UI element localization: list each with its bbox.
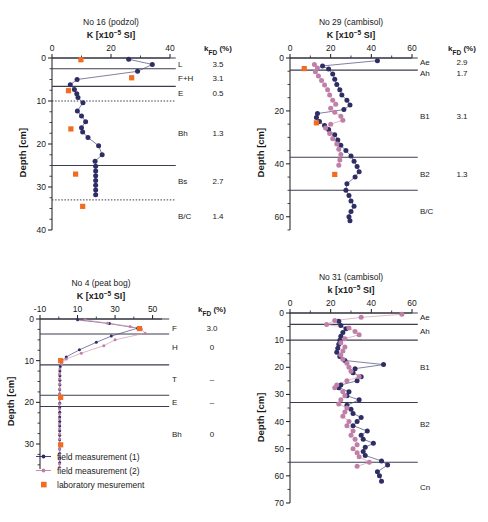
data-point xyxy=(330,98,335,103)
legend-label: field measurement (1) xyxy=(57,452,140,462)
data-point xyxy=(80,129,85,134)
horizon-label: F+H xyxy=(178,74,194,83)
data-point xyxy=(332,77,337,82)
data-point xyxy=(365,429,370,434)
data-point xyxy=(357,169,362,174)
lab-data-point xyxy=(78,57,83,62)
data-point xyxy=(344,423,349,428)
legend: field measurement (1)field measurement (… xyxy=(0,261,244,522)
data-point xyxy=(353,175,358,180)
data-point xyxy=(341,107,346,112)
legend-item: laboratory mesurement xyxy=(41,480,145,490)
legend-label: field measurement (2) xyxy=(57,466,140,476)
data-point xyxy=(355,442,360,447)
horizon-label: B2 xyxy=(420,420,430,429)
kfd-value: 3.5 xyxy=(212,60,224,69)
data-point xyxy=(357,397,362,402)
data-point xyxy=(323,126,328,131)
data-point xyxy=(371,441,376,446)
data-point xyxy=(351,411,356,416)
data-point xyxy=(340,118,345,123)
y-axis-label: Depth [cm] xyxy=(255,393,266,443)
data-point xyxy=(334,82,339,87)
data-point xyxy=(357,454,362,459)
lab-data-point xyxy=(332,172,337,177)
data-point xyxy=(93,178,98,183)
x-tick-label: 60 xyxy=(407,298,417,308)
data-point xyxy=(328,122,333,127)
data-point xyxy=(332,385,337,390)
data-point xyxy=(346,193,351,198)
data-point xyxy=(334,142,339,147)
data-point xyxy=(79,114,84,119)
horizon-label: Ah xyxy=(420,327,430,336)
data-point xyxy=(337,157,342,162)
data-point xyxy=(325,87,330,92)
data-point xyxy=(333,102,338,107)
data-point xyxy=(343,188,348,193)
panel-title: No 16 (podzol) xyxy=(83,17,139,27)
x-tick-label: 40 xyxy=(367,298,377,308)
data-point xyxy=(346,325,351,330)
data-point xyxy=(336,163,341,168)
x-tick-label: 40 xyxy=(165,43,175,53)
y-tick-label: 30 xyxy=(275,389,285,399)
data-point xyxy=(337,87,342,92)
data-point xyxy=(80,100,85,105)
data-point xyxy=(357,332,362,337)
lab-data-point xyxy=(68,126,73,131)
data-point xyxy=(336,147,341,152)
data-point xyxy=(359,415,364,420)
data-point xyxy=(327,131,332,136)
horizon-label: B1 xyxy=(420,363,430,372)
horizon-label: Ah xyxy=(420,69,430,78)
data-point xyxy=(349,198,354,203)
data-point xyxy=(328,106,333,111)
data-point xyxy=(338,152,343,157)
data-point xyxy=(330,136,335,141)
horizon-label: B/C xyxy=(178,212,192,221)
horizon-label: Bs xyxy=(178,177,187,186)
data-point xyxy=(344,378,349,383)
horizon-label: Ae xyxy=(420,58,430,67)
kfd-column-header: kFD (%) xyxy=(204,44,232,56)
panel-no16-podzol: No 16 (podzol)K [x10−5 SI]02040010203040… xyxy=(0,0,244,261)
data-point xyxy=(313,69,318,74)
y-tick-label: 30 xyxy=(37,182,47,192)
data-point xyxy=(347,218,352,223)
kfd-column-header: kFD (%) xyxy=(448,44,476,56)
data-point xyxy=(349,153,354,158)
data-point xyxy=(327,93,332,98)
data-point xyxy=(126,57,131,62)
data-point xyxy=(330,71,335,76)
data-point xyxy=(338,323,343,328)
y-tick-label: 50 xyxy=(275,444,285,454)
data-point xyxy=(334,350,339,355)
data-point xyxy=(319,78,324,83)
data-point xyxy=(355,464,360,469)
data-point xyxy=(353,329,358,334)
y-tick-label: 60 xyxy=(275,471,285,481)
data-point xyxy=(357,374,362,379)
data-point xyxy=(93,159,98,164)
horizon-label: B2 xyxy=(420,170,430,179)
kfd-value: 0.5 xyxy=(212,89,224,98)
data-point xyxy=(93,188,98,193)
data-point xyxy=(359,315,364,320)
data-point xyxy=(68,82,73,87)
data-point xyxy=(342,336,347,341)
x-tick-label: 40 xyxy=(367,43,377,53)
data-point xyxy=(399,312,404,317)
x-axis-label: k [x10−5 SI] xyxy=(328,284,375,296)
horizon-label: Cn xyxy=(420,483,430,492)
data-point xyxy=(320,63,325,68)
horizon-label: B1 xyxy=(420,112,430,121)
y-tick-label: 40 xyxy=(37,225,47,235)
data-point xyxy=(353,437,358,442)
data-point xyxy=(363,453,368,458)
lab-data-point xyxy=(80,204,85,209)
lab-data-point xyxy=(129,75,134,80)
data-point xyxy=(93,169,98,174)
x-axis-label: K [x10−5 SI] xyxy=(327,29,375,41)
data-point xyxy=(349,433,354,438)
